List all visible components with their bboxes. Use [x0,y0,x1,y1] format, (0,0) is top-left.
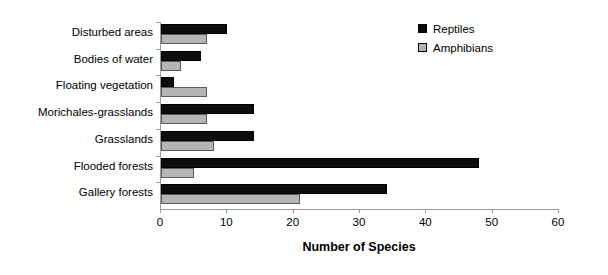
bar-reptiles [161,131,254,141]
x-axis-tick [425,209,426,213]
bar-reptiles [161,158,479,168]
y-axis-tick [156,102,160,103]
x-axis-tick-label: 60 [552,216,565,228]
chart-category-row: Bodies of water [160,49,558,76]
y-axis-category-label: Bodies of water [74,53,153,65]
bar-reptiles [161,24,227,34]
bar-amphibians [161,61,181,71]
bar-amphibians [161,141,214,151]
y-axis-tick [156,129,160,130]
x-axis-tick [226,209,227,213]
x-axis-tick-label: 50 [485,216,498,228]
x-axis-tick-label: 20 [286,216,299,228]
x-axis-tick [293,209,294,213]
y-axis-category-label: Grasslands [95,133,153,145]
bar-amphibians [161,34,207,44]
y-axis-category-label: Disturbed areas [72,26,153,38]
chart-category-row: Disturbed areas [160,22,558,49]
x-axis-tick-label: 30 [353,216,366,228]
y-axis-category-label: Flooded forests [74,160,153,172]
bar-amphibians [161,168,194,178]
x-axis-tick [492,209,493,213]
x-axis-tick [359,209,360,213]
x-axis-tick-label: 40 [419,216,432,228]
x-axis-tick [160,209,161,213]
y-axis-category-label: Floating vegetation [56,79,153,91]
bar-amphibians [161,87,207,97]
x-axis-title: Number of Species [160,240,558,254]
chart-category-row: Morichales-grasslands [160,102,558,129]
y-axis-tick [156,49,160,50]
bar-reptiles [161,184,387,194]
species-bar-chart: Reptiles Amphibians 0102030405060Disturb… [0,0,608,275]
x-axis-tick-label: 0 [157,216,163,228]
bar-reptiles [161,51,201,61]
bar-amphibians [161,114,207,124]
y-axis-category-label: Morichales-grasslands [38,106,153,118]
y-axis-tick [156,182,160,183]
y-axis-tick [156,75,160,76]
chart-category-row: Gallery forests [160,182,558,209]
bar-reptiles [161,77,174,87]
chart-category-row: Flooded forests [160,156,558,183]
y-axis-tick [156,22,160,23]
bar-amphibians [161,194,300,204]
chart-category-row: Grasslands [160,129,558,156]
x-axis-tick-label: 10 [220,216,233,228]
x-axis-tick [558,209,559,213]
bar-reptiles [161,104,254,114]
y-axis-tick [156,156,160,157]
chart-category-row: Floating vegetation [160,75,558,102]
plot-area: 0102030405060Disturbed areasBodies of wa… [160,22,558,209]
y-axis-category-label: Gallery forests [79,186,153,198]
